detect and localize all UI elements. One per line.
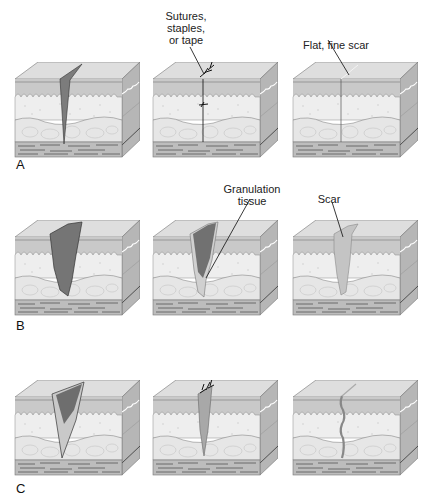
label-granulation-tissue: Granulation tissue — [222, 183, 282, 207]
panel-b2-granulation — [148, 220, 278, 325]
row-letter-c: C — [16, 481, 25, 496]
row-letter-b: B — [16, 318, 25, 333]
panel-c1-open-wound — [10, 380, 140, 485]
label-flat-fine-scar: Flat, fine scar — [296, 39, 376, 51]
panel-c3-scar — [288, 380, 418, 485]
row-letter-a: A — [16, 157, 25, 172]
panel-b3-scar — [288, 220, 418, 325]
panel-a3-fine-scar — [288, 62, 418, 167]
label-scar: Scar — [314, 193, 344, 205]
panel-b1-open-wound — [10, 220, 140, 325]
panel-c2-delayed-closure — [148, 380, 278, 485]
panel-a2-sutured — [148, 62, 278, 167]
panel-a1-incision — [10, 62, 140, 167]
label-sutures: Sutures, staples, or tape — [162, 10, 210, 46]
